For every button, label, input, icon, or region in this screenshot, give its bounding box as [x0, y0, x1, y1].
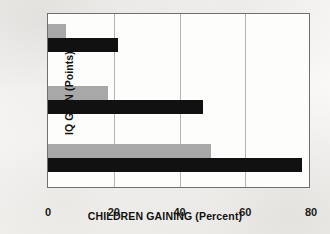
bar-group20-light: [48, 86, 108, 100]
plot-area: 30 20 10 0 20 40 60 80 IQ GAIN (Points): [47, 13, 310, 188]
chart-screenshot: 30 20 10 0 20 40 60 80 IQ GAIN (Points) …: [0, 0, 330, 234]
bar-group10-dark: [48, 158, 302, 172]
y-axis-title: IQ GAIN (Points): [63, 23, 75, 163]
x-axis-title: CHILDREN GAINING (Percent): [0, 210, 330, 222]
bar-group30-dark: [48, 38, 118, 52]
